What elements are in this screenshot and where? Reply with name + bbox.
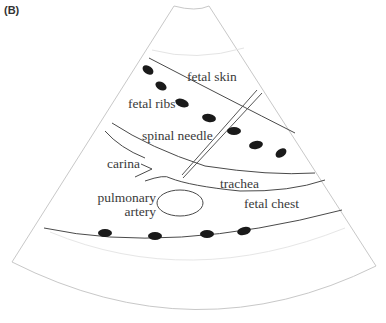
panel-label: (B)	[4, 4, 19, 16]
label-pulmonary: pulmonary	[97, 191, 156, 205]
ultrasound-schematic: (B) fetal skin fetal ribs spinal needle …	[0, 0, 386, 323]
pulmonary-artery-ellipse	[157, 190, 203, 216]
rib	[141, 63, 155, 76]
rib	[248, 140, 263, 150]
rib	[274, 146, 288, 159]
ultrasound-fan-outline	[12, 6, 376, 310]
rib	[201, 113, 216, 123]
rib	[227, 127, 241, 135]
label-trachea: trachea	[220, 177, 259, 191]
rib	[154, 80, 168, 93]
label-artery: artery	[97, 205, 156, 219]
label-carina: carina	[107, 157, 140, 171]
label-fetal-ribs: fetal ribs	[128, 97, 176, 111]
faint-arc-top	[152, 48, 244, 56]
rib	[148, 232, 162, 240]
label-spinal-needle: spinal needle	[142, 129, 213, 143]
rib	[174, 97, 190, 109]
rib	[200, 230, 214, 238]
rib	[236, 225, 252, 236]
faint-arc-bottom	[50, 228, 345, 260]
schematic-drawing	[0, 0, 386, 323]
label-fetal-chest: fetal chest	[244, 197, 299, 211]
rib	[98, 229, 112, 237]
label-fetal-skin: fetal skin	[187, 70, 237, 84]
spinal-line-lower	[105, 131, 145, 158]
